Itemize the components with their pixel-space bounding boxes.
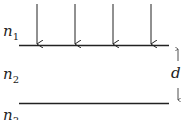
medium-label-n1: n1	[3, 24, 19, 42]
thickness-label: d	[171, 66, 181, 81]
thin-film-diagram	[0, 0, 183, 120]
incident-arrows	[37, 4, 151, 44]
medium-label-n3: n3	[3, 108, 19, 120]
medium-label-n2: n2	[3, 67, 19, 85]
